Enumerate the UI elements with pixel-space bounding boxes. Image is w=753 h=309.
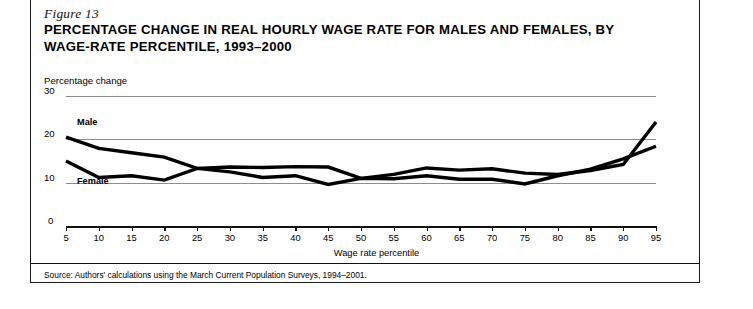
series-line-male [66, 122, 656, 178]
x-tick-5 [66, 226, 67, 231]
x-tick-label-45: 45 [315, 232, 341, 243]
x-tick-65 [459, 226, 460, 231]
x-tick-95 [656, 226, 657, 231]
series-label-male: Male [77, 117, 97, 127]
source-divider [31, 263, 699, 264]
x-tick-label-40: 40 [282, 232, 308, 243]
x-tick-label-50: 50 [348, 232, 374, 243]
x-tick-label-75: 75 [512, 232, 538, 243]
figure-title: PERCENTAGE CHANGE IN REAL HOURLY WAGE RA… [44, 22, 654, 55]
x-tick-label-85: 85 [577, 232, 603, 243]
x-tick-55 [394, 226, 395, 231]
x-tick-15 [132, 226, 133, 231]
x-tick-label-10: 10 [86, 232, 112, 243]
figure-number: Figure 13 [44, 6, 99, 22]
x-tick-label-70: 70 [479, 232, 505, 243]
x-tick-10 [99, 226, 100, 231]
x-tick-label-20: 20 [151, 232, 177, 243]
x-tick-60 [427, 226, 428, 231]
y-tick-label-20: 20 [44, 128, 66, 139]
y-tick-label-30: 30 [44, 85, 66, 96]
x-tick-label-55: 55 [381, 232, 407, 243]
figure-title-text: PERCENTAGE CHANGE IN REAL HOURLY WAGE RA… [44, 22, 614, 54]
x-tick-label-95: 95 [643, 232, 669, 243]
x-tick-25 [197, 226, 198, 231]
x-tick-90 [623, 226, 624, 231]
x-tick-20 [164, 226, 165, 231]
x-tick-label-15: 15 [119, 232, 145, 243]
x-tick-50 [361, 226, 362, 231]
x-tick-40 [295, 226, 296, 231]
x-tick-45 [328, 226, 329, 231]
y-tick-label-10: 10 [44, 172, 66, 183]
x-tick-label-65: 65 [446, 232, 472, 243]
x-tick-label-35: 35 [250, 232, 276, 243]
x-axis-label: Wage rate percentile [0, 248, 753, 258]
x-tick-label-90: 90 [610, 232, 636, 243]
x-tick-35 [263, 226, 264, 231]
x-tick-label-5: 5 [53, 232, 79, 243]
x-tick-70 [492, 226, 493, 231]
x-tick-label-25: 25 [184, 232, 210, 243]
plot-area [66, 96, 656, 226]
x-tick-30 [230, 226, 231, 231]
series-label-female: Female [77, 176, 109, 186]
figure-page: Figure 13 PERCENTAGE CHANGE IN REAL HOUR… [0, 0, 753, 309]
x-tick-label-80: 80 [545, 232, 571, 243]
x-tick-85 [590, 226, 591, 231]
source-note: Source: Authors' calculations using the … [44, 270, 367, 280]
series-line-female [66, 146, 656, 184]
x-tick-80 [558, 226, 559, 231]
chart-lines [66, 96, 666, 236]
x-tick-75 [525, 226, 526, 231]
y-tick-label-0: 0 [48, 215, 70, 226]
x-tick-label-60: 60 [414, 232, 440, 243]
x-tick-label-30: 30 [217, 232, 243, 243]
